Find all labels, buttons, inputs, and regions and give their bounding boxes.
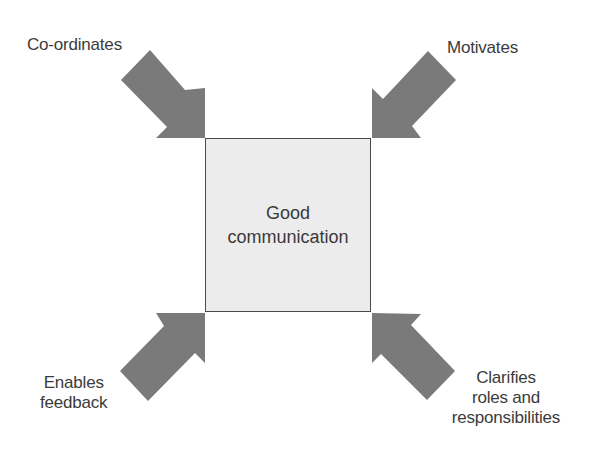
center-label-line2: communication [227, 225, 348, 249]
label-enables-feedback: Enables feedback [40, 373, 107, 413]
good-communication-box: Good communication [205, 138, 371, 312]
arrow-top-left-icon [121, 50, 205, 138]
communication-diagram: Good communication Co-ordinates Motivate… [0, 0, 604, 457]
label-motivates: Motivates [447, 38, 518, 58]
label-coordinates: Co-ordinates [27, 35, 122, 55]
arrow-bottom-left-icon [120, 313, 205, 401]
label-clarifies-roles: Clarifies roles and responsibilities [436, 368, 576, 428]
center-label-line1: Good [266, 201, 310, 225]
arrow-top-right-icon [372, 51, 456, 138]
